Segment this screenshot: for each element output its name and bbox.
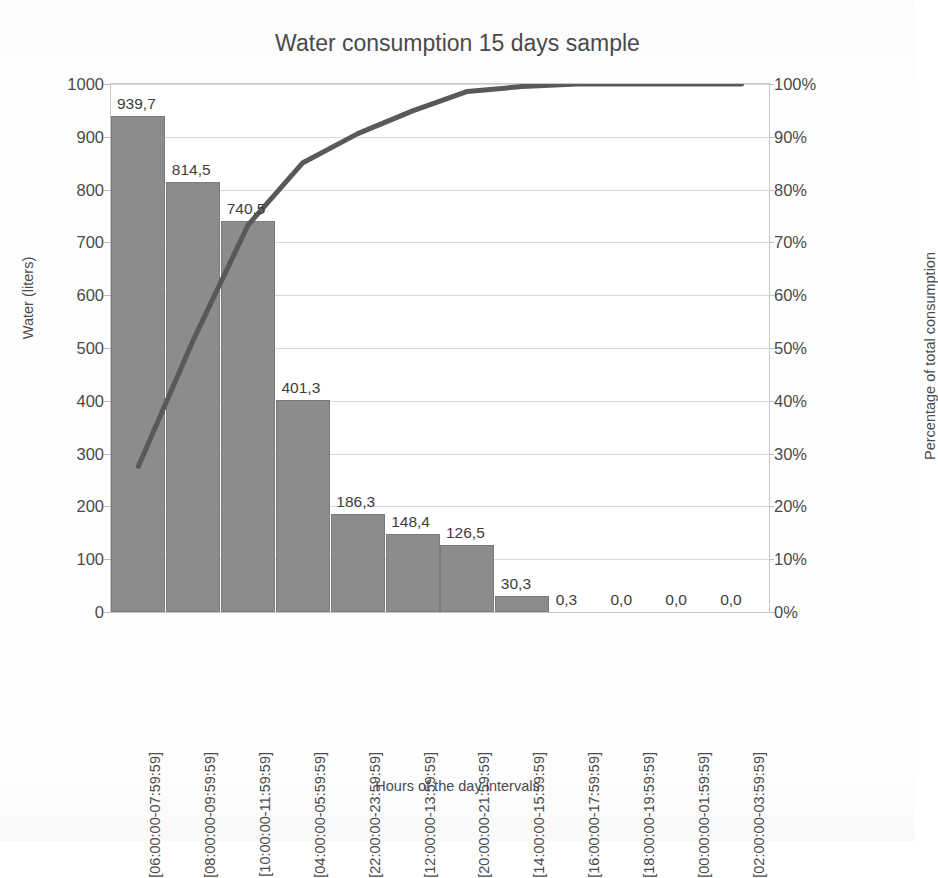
y-axis-left-tick-label: 0 [44,603,104,622]
x-axis-category-label: [20:00:00-21:59:59] [474,752,494,878]
x-axis-category-label: [02:00:00-03:59:59] [749,752,769,878]
x-axis-category-label: [08:00:00-09:59:59] [200,752,220,878]
y-axis-left-tick-label: 900 [44,127,104,146]
bar-value-label: 126,5 [446,524,485,542]
bar-value-label: 939,7 [117,95,156,113]
y-axis-right-tick-label: 10% [774,550,830,569]
x-axis-category-label: [22:00:00-23:59:59] [365,752,385,878]
x-axis-category-labels: [06:00:00-07:59:59][08:00:00-09:59:59][1… [110,614,770,764]
bar-value-label: 0,0 [665,591,687,609]
y-axis-right-title: Percentage of total consumption [922,191,938,521]
y-axis-right-ticks: 0%10%20%30%40%50%60%70%80%90%100% [774,83,834,613]
y-axis-right-tick-label: 0% [774,603,830,622]
y-axis-left-tick-label: 300 [44,444,104,463]
plot-area: 939,7814,5740,5401,3186,3148,4126,530,30… [110,83,770,613]
bar-value-labels: 939,7814,5740,5401,3186,3148,4126,530,30… [111,84,769,612]
y-axis-left-tick-label: 500 [44,339,104,358]
y-axis-right-tick-label: 30% [774,444,830,463]
y-axis-right-tick-label: 20% [774,497,830,516]
y-axis-left-tick-label: 600 [44,286,104,305]
bar-value-label: 186,3 [336,493,375,511]
x-axis-category-label: [06:00:00-07:59:59] [145,752,165,878]
x-axis-category-label: [18:00:00-19:59:59] [639,752,659,878]
y-axis-left-title: Water (liters) [20,208,36,388]
x-axis-category-label: [10:00:00-11:59:59] [255,752,275,877]
bar-value-label: 30,3 [501,575,531,593]
y-axis-left-tick-label: 700 [44,233,104,252]
chart-title: Water consumption 15 days sample [0,30,915,57]
x-axis-category-label: [14:00:00-15:59:59] [529,752,549,878]
y-axis-right-tick-label: 50% [774,339,830,358]
y-axis-right-tick-label: 100% [774,75,830,94]
x-axis-category-label: [16:00:00-17:59:59] [584,752,604,878]
y-axis-left-tick-label: 100 [44,550,104,569]
x-axis-category-label: [00:00:00-01:59:59] [694,752,714,878]
x-axis-category-label: [04:00:00-05:59:59] [310,752,330,878]
bar-value-label: 0,0 [611,591,633,609]
y-axis-left-tick-label: 200 [44,497,104,516]
y-axis-right-tick-label: 80% [774,180,830,199]
bar-value-label: 0,0 [720,591,742,609]
bar-value-label: 401,3 [282,379,321,397]
y-axis-left-tick-label: 1000 [44,75,104,94]
y-axis-left-tick-label: 800 [44,180,104,199]
y-axis-right-tick-label: 40% [774,391,830,410]
bar-value-label: 148,4 [391,513,430,531]
x-axis-category-label: [12:00:00-13:59:59] [420,752,440,878]
y-axis-right-tick-label: 90% [774,127,830,146]
y-axis-left-ticks: 01002003004005006007008009001000 [40,83,104,613]
y-axis-right-tick-label: 60% [774,286,830,305]
bar-value-label: 740,5 [227,200,266,218]
bar-value-label: 814,5 [172,161,211,179]
x-axis-title: Hours of the day intervals [0,778,915,794]
y-axis-right-tick-label: 70% [774,233,830,252]
y-axis-left-tick-label: 400 [44,391,104,410]
bar-value-label: 0,3 [556,591,578,609]
